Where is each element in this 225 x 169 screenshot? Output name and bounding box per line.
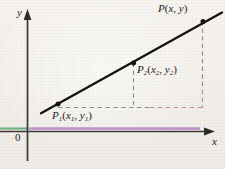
y-axis-label: y <box>17 7 22 18</box>
point-label-p1-sub: 1 <box>59 115 63 123</box>
point-label-p2-close: ) <box>173 63 177 75</box>
figure-coordinate-plane: y x 0 P(x, y) P2(x2, y2) P1(x1, y1) <box>0 0 225 169</box>
origin-label: 0 <box>15 132 21 143</box>
point-label-p2-y: y <box>165 63 170 75</box>
point-label-p-comma: , <box>173 2 176 14</box>
point-label-p2: P2(x2, y2) <box>137 64 177 75</box>
point-label-p2-comma: , <box>159 63 162 75</box>
point-label-p-name: P <box>158 2 165 14</box>
point-marker-p1 <box>56 102 61 107</box>
point-label-p: P(x, y) <box>158 3 187 14</box>
point-label-p1-name: P <box>52 109 59 121</box>
point-label-p1: P1(x1, y1) <box>52 110 92 121</box>
point-label-p1-close: ) <box>88 109 92 121</box>
point-label-p1-y: y <box>80 109 85 121</box>
point-label-p2-name: P <box>137 63 144 75</box>
point-marker-p2 <box>131 61 136 66</box>
point-label-p2-y-sub: 2 <box>170 69 174 77</box>
point-label-p1-comma: , <box>74 109 77 121</box>
point-label-p-close: ) <box>184 2 188 14</box>
y-axis-arrowhead <box>24 9 32 20</box>
diagram-canvas <box>0 0 225 169</box>
point-label-p1-y-sub: 1 <box>85 115 89 123</box>
point-label-p1-x-sub: 1 <box>71 115 75 123</box>
point-label-p2-sub: 2 <box>144 69 148 77</box>
x-axis-label: x <box>212 136 217 147</box>
point-marker-p <box>201 19 206 24</box>
point-label-p2-x-sub: 2 <box>156 69 160 77</box>
